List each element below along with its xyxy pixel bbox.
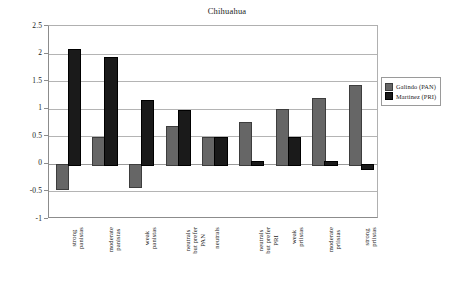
x-axis-label: strongpanistas bbox=[70, 227, 85, 249]
y-tick-label: 1.5 bbox=[0, 76, 42, 85]
x-axis-label-line: panistas bbox=[114, 227, 121, 252]
x-axis-label-line: strong bbox=[70, 227, 77, 249]
bar-pri bbox=[178, 110, 192, 166]
legend-swatch-pri-icon bbox=[385, 92, 393, 100]
y-tick-label: 2.5 bbox=[0, 21, 42, 30]
x-axis-label-line: panistas bbox=[77, 227, 84, 249]
bar-group bbox=[196, 26, 233, 219]
chart-title: Chihuahua bbox=[0, 6, 454, 16]
x-axis-label-line: priistas bbox=[297, 227, 304, 247]
bar-pan bbox=[129, 164, 143, 189]
y-tick-label: -0.5 bbox=[0, 186, 42, 195]
bar-pri bbox=[251, 161, 265, 166]
bar-group bbox=[269, 26, 306, 219]
bar-group bbox=[159, 26, 196, 219]
x-axis-label-line: weak bbox=[290, 227, 297, 247]
bar-pri bbox=[288, 137, 302, 166]
x-axis-label-line: neutrals bbox=[184, 227, 191, 254]
x-axis-label: strongpriistas bbox=[363, 227, 378, 247]
legend-item[interactable]: Martinez (PRI) bbox=[385, 92, 436, 100]
legend-label: Martinez (PRI) bbox=[396, 93, 436, 100]
x-axis-label-line: PRI bbox=[272, 227, 279, 254]
x-axis-label-line: but prefer bbox=[191, 227, 198, 254]
bar-group bbox=[306, 26, 343, 219]
x-axis-label-line: PAN bbox=[199, 227, 206, 254]
bar-pan bbox=[312, 98, 326, 166]
x-axis-label-line: but prefer bbox=[264, 227, 271, 254]
bar-group bbox=[86, 26, 123, 219]
y-tick-label: 0 bbox=[0, 158, 42, 167]
bar-group bbox=[49, 26, 86, 219]
legend-swatch-pan-icon bbox=[385, 83, 393, 91]
bar-pri bbox=[141, 100, 155, 166]
bar-pri bbox=[68, 49, 82, 166]
bar-pri bbox=[214, 137, 228, 166]
legend-label: Galindo (PAN) bbox=[396, 83, 436, 90]
chart-legend: Galindo (PAN)Martinez (PRI) bbox=[381, 77, 441, 106]
bar-pri bbox=[104, 57, 118, 166]
y-tick-label: 2 bbox=[0, 48, 42, 57]
plot-area bbox=[48, 25, 378, 218]
x-axis-label: weakpanistas bbox=[143, 227, 158, 249]
bar-pri bbox=[324, 161, 338, 166]
legend-item[interactable]: Galindo (PAN) bbox=[385, 83, 436, 91]
bar-group bbox=[342, 26, 379, 219]
bar-pan bbox=[239, 122, 253, 166]
y-tick-label: 0.5 bbox=[0, 131, 42, 140]
bar-group bbox=[122, 26, 159, 219]
x-axis-label: neutralsbut preferPAN bbox=[184, 227, 206, 254]
bar-pri bbox=[361, 164, 375, 170]
bar-pan bbox=[56, 164, 70, 190]
x-axis-label-line: neutrals bbox=[257, 227, 264, 254]
bar-group bbox=[232, 26, 269, 219]
bar-pan bbox=[349, 85, 363, 166]
x-axis-label: moderatepanistas bbox=[107, 227, 122, 252]
x-axis-label-line: moderate bbox=[107, 227, 114, 252]
x-axis-label: weakpriistas bbox=[290, 227, 305, 247]
x-axis-labels: strongpanistasmoderatepanistasweakpanist… bbox=[48, 219, 378, 291]
x-axis-label: neutrals bbox=[213, 227, 220, 249]
x-axis-label-line: priistas bbox=[334, 227, 341, 252]
chart-figure: Chihuahua 2.521.510.50-0.5-1 strongpanis… bbox=[0, 0, 454, 291]
x-axis-label: neutralsbut preferPRI bbox=[257, 227, 279, 254]
x-axis-label-line: moderate bbox=[327, 227, 334, 252]
y-tick-label: 1 bbox=[0, 103, 42, 112]
y-tick-label: -1 bbox=[0, 214, 42, 223]
x-axis-label-line: neutrals bbox=[213, 227, 220, 249]
x-axis-label-line: panistas bbox=[151, 227, 158, 249]
x-axis-label-line: priistas bbox=[371, 227, 378, 247]
x-axis-label: moderatepriistas bbox=[327, 227, 342, 252]
